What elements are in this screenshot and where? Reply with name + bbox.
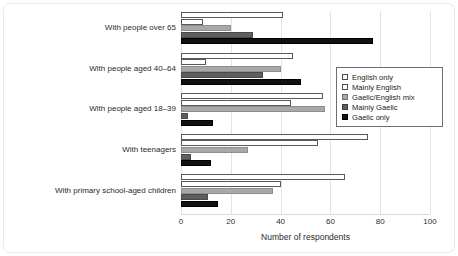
bar: [181, 188, 273, 194]
x-axis-title: Number of respondents: [181, 232, 430, 242]
x-tick-40: 40: [266, 217, 296, 226]
bar: [181, 59, 206, 65]
legend-swatch-icon: [342, 74, 348, 80]
bar-group: [181, 174, 430, 206]
bar: [181, 72, 263, 78]
bar: [181, 201, 218, 207]
bar-group: [181, 134, 430, 166]
bar: [181, 120, 213, 126]
legend-box: English onlyMainly EnglishGaelic/English…: [336, 67, 443, 127]
legend-item[interactable]: Gaelic/English mix: [342, 92, 438, 102]
legend-swatch-icon: [342, 84, 348, 90]
bar: [181, 154, 191, 160]
bar-group: [181, 12, 430, 44]
bar: [181, 93, 323, 99]
legend-swatch-icon: [342, 94, 348, 100]
category-label-over-65: With people over 65: [6, 23, 176, 32]
bar: [181, 32, 253, 38]
bar: [181, 106, 325, 112]
legend-swatch-icon: [342, 104, 348, 110]
x-tick-0: 0: [166, 217, 196, 226]
bar: [181, 79, 301, 85]
legend-item[interactable]: English only: [342, 72, 438, 82]
legend-label: Gaelic only: [352, 113, 390, 122]
x-tick-20: 20: [216, 217, 246, 226]
category-label-teenagers: With teenagers: [6, 145, 176, 154]
bar: [181, 66, 281, 72]
bar: [181, 181, 281, 187]
bar: [181, 134, 368, 140]
bar: [181, 113, 188, 119]
bar: [181, 194, 208, 200]
legend-item[interactable]: Mainly Gaelic: [342, 102, 438, 112]
bar: [181, 140, 318, 146]
category-label-40-64: With people aged 40–64: [6, 64, 176, 73]
bar: [181, 160, 211, 166]
category-label-18-39: With people aged 18–39: [6, 104, 176, 113]
legend-swatch-icon: [342, 114, 348, 120]
legend-label: Mainly Gaelic: [352, 103, 398, 112]
chart-figure: With people over 65 With people aged 40–…: [0, 0, 458, 256]
legend-label: Mainly English: [352, 83, 401, 92]
x-tick-80: 80: [365, 217, 395, 226]
bar: [181, 53, 293, 59]
x-axis-line: [181, 214, 430, 215]
legend-item[interactable]: Gaelic only: [342, 112, 438, 122]
legend-label: Gaelic/English mix: [352, 93, 414, 102]
x-tick-100: 100: [415, 217, 445, 226]
bar: [181, 147, 248, 153]
bar: [181, 174, 345, 180]
category-label-primary: With primary school-aged children: [6, 186, 176, 195]
x-tick-60: 60: [315, 217, 345, 226]
bar: [181, 100, 291, 106]
bar: [181, 25, 231, 31]
legend-label: English only: [352, 73, 393, 82]
bar: [181, 12, 283, 18]
bar: [181, 19, 203, 25]
legend-item[interactable]: Mainly English: [342, 82, 438, 92]
bar: [181, 38, 373, 44]
